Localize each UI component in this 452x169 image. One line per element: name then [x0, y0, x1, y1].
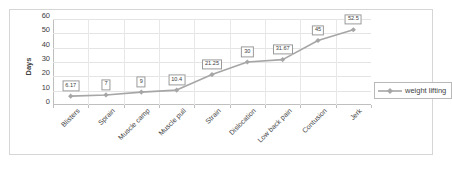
- data-label: 31.67: [273, 44, 293, 55]
- data-point-marker: [245, 59, 250, 64]
- data-point-marker: [209, 72, 214, 77]
- data-point-marker: [174, 87, 179, 92]
- data-label: 52.5: [345, 14, 362, 25]
- plot-area: 6.177910.421.253031.674552.5: [53, 19, 371, 105]
- x-category-label: Strain: [204, 107, 222, 125]
- legend-marker-icon: [378, 87, 402, 95]
- data-label: 45: [312, 25, 324, 36]
- chart-container: Days 0102030405060 6.177910.421.253031.6…: [9, 9, 433, 155]
- data-label: 6.17: [62, 81, 79, 92]
- data-point-marker: [139, 90, 144, 95]
- y-tick-label: 60: [28, 12, 50, 20]
- data-point-marker: [351, 27, 356, 32]
- y-tick-label: 0: [28, 98, 50, 106]
- data-point-marker: [68, 94, 73, 99]
- x-category-label: Sprain: [97, 107, 116, 126]
- x-category-label: Muscle camp: [117, 107, 151, 141]
- y-tick-label: 20: [28, 69, 50, 77]
- chart-legend[interactable]: weight lifting: [374, 82, 452, 99]
- legend-label: weight lifting: [405, 86, 446, 95]
- x-category-label: Dislocation: [228, 107, 257, 136]
- data-label: 7: [101, 79, 110, 90]
- y-tick-label: 10: [28, 84, 50, 92]
- x-category-label: Low back pain: [256, 107, 293, 144]
- data-point-marker: [103, 92, 108, 97]
- y-tick-label: 30: [28, 55, 50, 63]
- data-label: 21.25: [202, 59, 222, 70]
- x-category-label: Contusion: [301, 107, 328, 134]
- chart-plot-wrapper: Days 0102030405060 6.177910.421.253031.6…: [10, 10, 434, 156]
- y-axis-tick-labels: 0102030405060: [28, 16, 50, 108]
- y-tick-label: 50: [28, 26, 50, 34]
- y-tick-label: 40: [28, 41, 50, 49]
- data-label: 9: [137, 77, 146, 88]
- x-axis-category-labels: BlistersSprainMuscle campMuscle pullStra…: [53, 107, 371, 159]
- x-category-label: Muscle pull: [157, 107, 187, 137]
- data-label: 30: [241, 46, 253, 57]
- x-category-label: Jerk: [349, 107, 363, 121]
- data-label: 10.4: [168, 74, 185, 85]
- x-category-label: Blisters: [59, 107, 80, 128]
- x-axis-tick: [371, 105, 372, 108]
